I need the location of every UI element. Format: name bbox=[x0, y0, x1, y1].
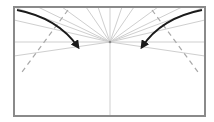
fan-crease bbox=[86, 7, 110, 42]
fan-crease bbox=[110, 7, 134, 42]
crease-lines bbox=[14, 7, 205, 116]
left-fold-arrow-icon bbox=[17, 10, 78, 47]
fan-crease bbox=[38, 7, 110, 42]
fan-crease bbox=[14, 42, 110, 56]
fan-crease bbox=[110, 42, 205, 56]
origami-fold-diagram bbox=[0, 0, 214, 122]
fan-crease bbox=[110, 7, 182, 42]
center-point bbox=[109, 41, 112, 44]
right-fold-arrow-icon bbox=[142, 10, 202, 47]
